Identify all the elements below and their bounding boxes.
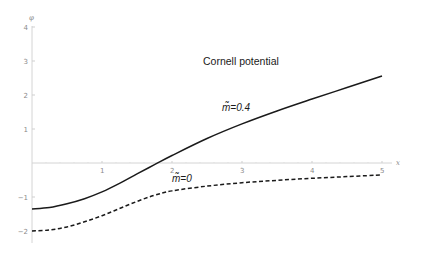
y-tick-label: −1 xyxy=(18,194,28,202)
series-m-0.4-solid-line xyxy=(32,76,382,209)
annotation-m-0: m̃=0 xyxy=(172,172,192,184)
series-m-0-dashed-line xyxy=(32,175,382,231)
chart-title: Cornell potential xyxy=(203,55,279,67)
series-group xyxy=(32,76,382,231)
x-tick-label: 4 xyxy=(310,167,315,175)
y-tick-label: −2 xyxy=(18,228,28,236)
chart: 12345 −2−11234 x φ Cornell potential m̃=… xyxy=(0,0,423,257)
y-tick-label: 2 xyxy=(24,92,28,100)
y-axis-label: φ xyxy=(29,14,34,22)
x-tick-label: 1 xyxy=(100,167,104,175)
x-axis-label: x xyxy=(396,159,400,167)
y-tick-label: 3 xyxy=(24,58,28,66)
annotation-m-0.4: m̃=0.4 xyxy=(222,101,251,113)
y-tick-label: 4 xyxy=(24,24,29,32)
x-tick-label: 3 xyxy=(240,167,244,175)
y-tick-label: 1 xyxy=(24,126,28,134)
axes: 12345 −2−11234 x φ xyxy=(18,14,400,243)
x-tick-label: 5 xyxy=(380,167,384,175)
